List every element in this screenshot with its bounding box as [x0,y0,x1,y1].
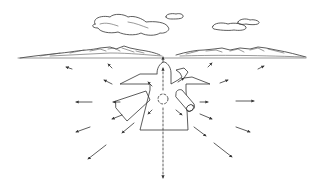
illustration-scene [0,0,322,190]
mountain-range-right [176,47,306,57]
center-marker-icon [158,94,168,104]
cloud-large-icon [93,14,169,35]
cloud-small-icon [166,14,183,19]
radiating-arrows [66,57,264,178]
diagram-canvas [0,0,322,190]
mountain-range-left [20,46,162,58]
cloud-right-icon [212,19,259,30]
